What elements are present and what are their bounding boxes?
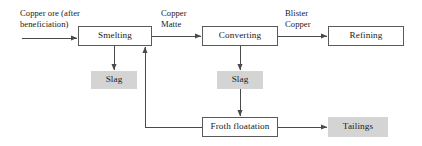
node-froth-floatation-label: Froth floatation — [210, 122, 269, 131]
node-tailings[interactable]: Tailings — [328, 117, 388, 137]
node-slag-from-converting-label: Slag — [232, 75, 249, 84]
label-copper-ore-feed: Copper ore (after beneficiation) — [20, 8, 80, 30]
edge-froth-recycle-to-smelting — [145, 47, 202, 127]
label-copper-matte: Copper Matte — [161, 8, 187, 30]
node-smelting[interactable]: Smelting — [78, 26, 152, 46]
node-smelting-label: Smelting — [98, 31, 132, 40]
process-flow-diagram: Smelting Converting Refining Slag Slag F… — [0, 0, 422, 146]
node-tailings-label: Tailings — [343, 122, 373, 131]
node-slag-from-converting[interactable]: Slag — [217, 71, 263, 89]
node-slag-from-smelting-label: Slag — [106, 75, 123, 84]
node-converting[interactable]: Converting — [202, 26, 278, 46]
node-refining-label: Refining — [350, 31, 383, 40]
node-refining[interactable]: Refining — [328, 26, 404, 46]
node-converting-label: Converting — [219, 31, 261, 40]
node-froth-floatation[interactable]: Froth floatation — [202, 117, 278, 137]
label-blister-copper: Blister Copper — [285, 8, 311, 30]
node-slag-from-smelting[interactable]: Slag — [91, 71, 137, 89]
